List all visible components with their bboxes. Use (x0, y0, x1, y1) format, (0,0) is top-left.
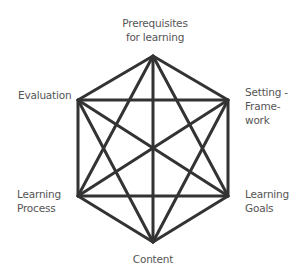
didactic-hexagon-diagram: Prerequisites for learning Evaluation Se… (0, 0, 303, 276)
node-label-setting-framework: Setting - Frame- work (245, 85, 288, 127)
node-label-learning-process: Learning Process (17, 187, 61, 215)
node-label-prerequisites: Prerequisites for learning (103, 16, 207, 44)
node-label-evaluation: Evaluation (18, 88, 71, 102)
node-label-content: Content (113, 252, 193, 266)
node-label-learning-goals: Learning Goals (245, 187, 289, 215)
